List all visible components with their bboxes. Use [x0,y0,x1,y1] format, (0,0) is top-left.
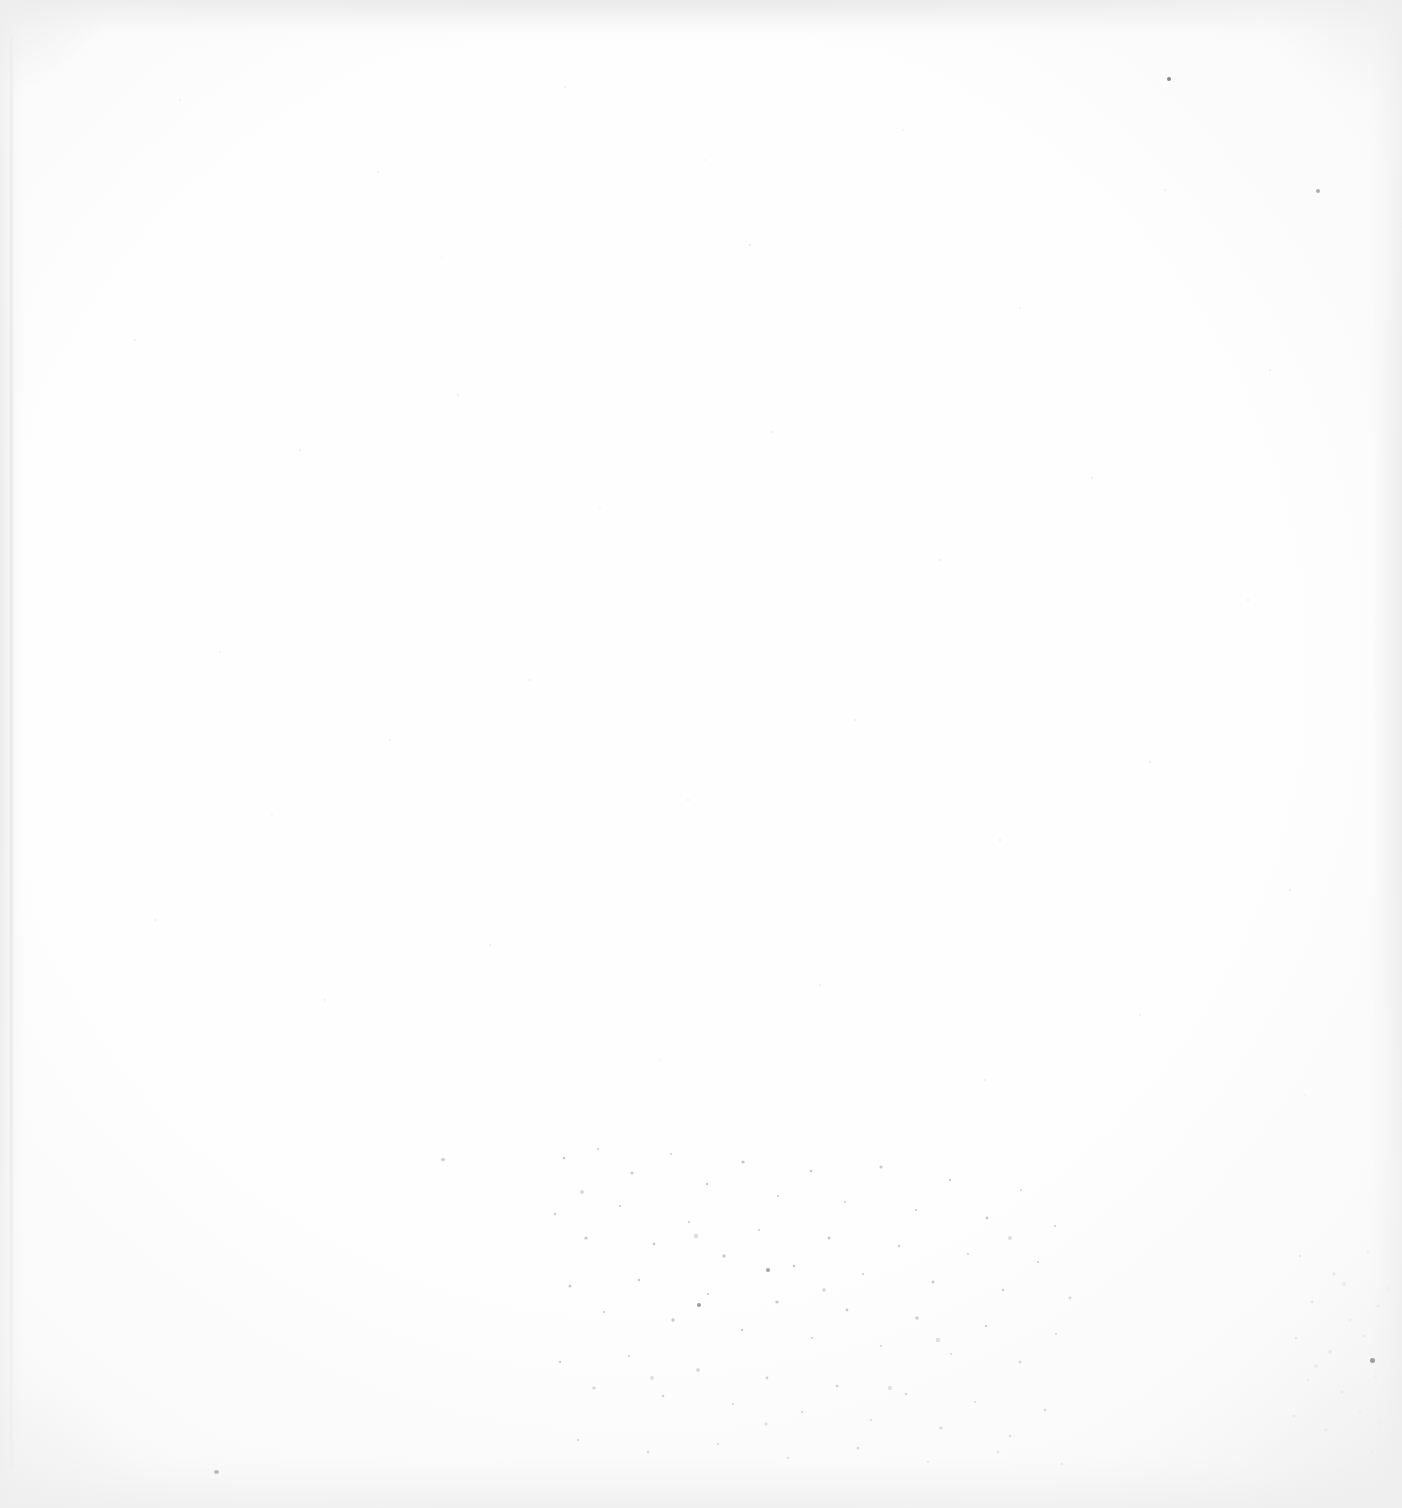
scanned-page [0,0,1402,1508]
paper-surface [0,0,1402,1508]
